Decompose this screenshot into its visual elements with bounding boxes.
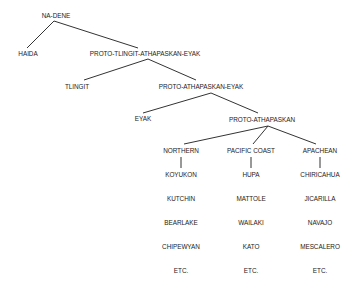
language-item: KUTCHIN [167,195,195,203]
node-eyak: EYAK [135,115,151,123]
language-item: ETC. [174,267,188,275]
node-proto-tlingit-athapaskan-eyak: PROTO-TLINGIT-ATHAPASKAN-EYAK [90,50,200,58]
language-item: JICARILLA [304,195,335,203]
language-family-tree: NA-DENE HAIDA PROTO-TLINGIT-ATHAPASKAN-E… [0,0,357,293]
language-item: WAILAKI [238,219,263,227]
edge-pae-proto-athapaskan [211,93,258,113]
group-pacific-coast: PACIFIC COAST [227,147,275,155]
edge-pa-apachean [268,126,316,144]
node-proto-athapaskan: PROTO-ATHAPASKAN [229,116,295,124]
group-apachean: APACHEAN [303,147,337,155]
group-northern: NORTHERN [163,147,199,155]
language-item: KOYUKON [165,171,197,179]
node-proto-athapaskan-eyak: PROTO-ATHAPASKAN-EYAK [159,83,243,91]
language-item: CHIRICAHUA [300,171,339,179]
edge-pae-eyak [143,93,211,113]
language-item: MESCALERO [300,243,340,251]
node-na-dene: NA-DENE [42,12,70,20]
language-item: ETC. [313,267,327,275]
language-item: KATO [243,243,260,251]
language-item: ETC. [244,267,258,275]
language-item: NAVAJO [308,219,332,227]
edge-na-dene-haida [27,21,54,48]
node-tlingit: TLINGIT [65,83,89,91]
language-item: MATTOLE [236,195,265,203]
language-item: CHIPEWYAN [162,243,200,251]
language-item: BEARLAKE [164,219,197,227]
edge-proto-tlingit-proto-athapaskan-eyak [148,59,196,80]
edge-proto-tlingit-tlingit [84,59,148,80]
edge-na-dene-proto-tlingit [54,21,138,48]
language-item: HUPA [242,171,259,179]
node-haida: HAIDA [18,50,37,58]
